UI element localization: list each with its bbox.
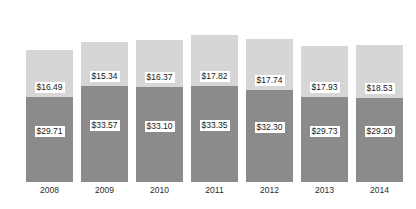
bar-2011-bottom-value: $33.35: [200, 120, 230, 131]
bar-2014-bottom-value: $29.20: [365, 126, 395, 137]
bar-2009-top-segment[interactable]: $15.34: [81, 42, 128, 86]
bar-2009-top-value: $15.34: [90, 71, 120, 82]
stacked-bar-chart: $16.49 $29.71 $15.34 $33.57 $16.37 $33.1…: [0, 0, 416, 209]
x-axis-label-2008: 2008: [26, 184, 73, 196]
bar-2008-bottom-segment[interactable]: $29.71: [26, 97, 73, 182]
bar-2008-top-segment[interactable]: $16.49: [26, 50, 73, 97]
bar-2011-top-value: $17.82: [200, 71, 230, 82]
bar-2013-top-segment[interactable]: $17.93: [301, 46, 348, 97]
plot-area: $16.49 $29.71 $15.34 $33.57 $16.37 $33.1…: [0, 0, 416, 182]
bar-2010-bottom-segment[interactable]: $33.10: [136, 87, 183, 182]
bar-2014[interactable]: $18.53 $29.20: [356, 45, 403, 182]
bar-2010[interactable]: $16.37 $33.10: [136, 40, 183, 182]
bar-2013[interactable]: $17.93 $29.73: [301, 46, 348, 182]
bar-2008-top-value: $16.49: [35, 82, 65, 93]
bar-2011-top-segment[interactable]: $17.82: [191, 35, 238, 86]
bar-2013-bottom-value: $29.73: [310, 126, 340, 137]
bar-2011[interactable]: $17.82 $33.35: [191, 35, 238, 182]
bar-2012-top-segment[interactable]: $17.74: [246, 39, 293, 90]
x-axis-label-2013: 2013: [301, 184, 348, 196]
bar-2014-bottom-segment[interactable]: $29.20: [356, 98, 403, 182]
x-axis-label-2012: 2012: [246, 184, 293, 196]
bar-2014-top-value: $18.53: [365, 83, 395, 94]
bar-2012-bottom-segment[interactable]: $32.30: [246, 90, 293, 182]
bar-2009[interactable]: $15.34 $33.57: [81, 42, 128, 182]
bar-2012-top-value: $17.74: [255, 75, 285, 86]
x-axis-label-2014: 2014: [356, 184, 403, 196]
bar-2010-bottom-value: $33.10: [145, 121, 175, 132]
x-axis-labels: 2008 2009 2010 2011 2012 2013 2014: [0, 184, 416, 209]
bar-2010-top-segment[interactable]: $16.37: [136, 40, 183, 87]
bar-2009-bottom-value: $33.57: [90, 120, 120, 131]
bar-2012-bottom-value: $32.30: [255, 122, 285, 133]
bar-2012[interactable]: $17.74 $32.30: [246, 39, 293, 182]
x-axis-label-2011: 2011: [191, 184, 238, 196]
bar-2013-bottom-segment[interactable]: $29.73: [301, 97, 348, 182]
bar-2009-bottom-segment[interactable]: $33.57: [81, 86, 128, 182]
bar-2010-top-value: $16.37: [145, 72, 175, 83]
x-axis-label-2010: 2010: [136, 184, 183, 196]
bar-2008[interactable]: $16.49 $29.71: [26, 50, 73, 182]
bar-2014-top-segment[interactable]: $18.53: [356, 45, 403, 98]
bar-2013-top-value: $17.93: [310, 82, 340, 93]
bar-2011-bottom-segment[interactable]: $33.35: [191, 86, 238, 182]
x-axis-label-2009: 2009: [81, 184, 128, 196]
bar-2008-bottom-value: $29.71: [35, 126, 65, 137]
